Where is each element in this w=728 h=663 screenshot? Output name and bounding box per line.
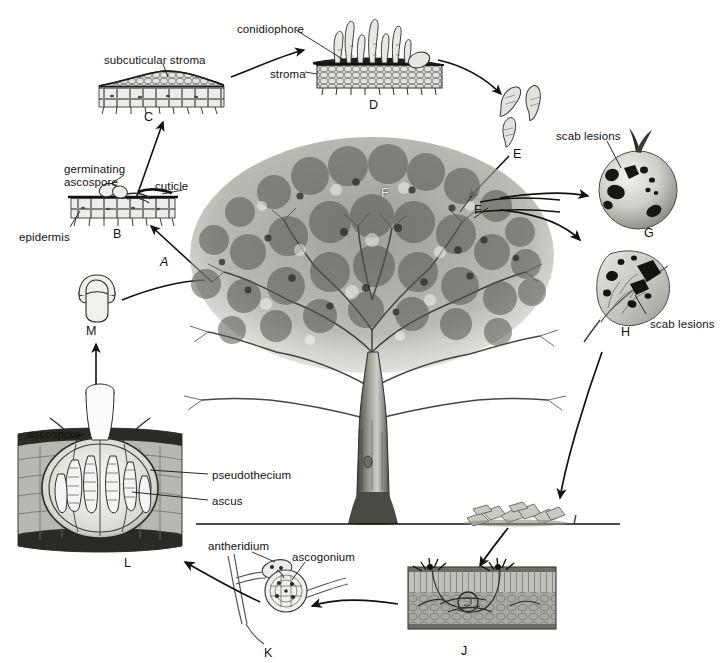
arrow-gametangia-to-pseudothecium (185, 562, 260, 602)
label-scab-lesions-fruit: scab lesions (556, 130, 620, 142)
label-epidermis: epidermis (19, 231, 70, 243)
label-ascospore-left: ascospore (27, 428, 81, 440)
arrow-tissue-to-gametangia (312, 600, 398, 606)
stage-letter-F-branch: F (474, 204, 482, 217)
label-germinating: germinating (64, 163, 125, 175)
label-ascospore-germ: ascospore (64, 176, 118, 188)
label-pseudothecium: pseudothecium (212, 469, 291, 481)
stage-letter-D: D (369, 99, 378, 112)
arrow-leaf-fall (560, 352, 602, 498)
label-conidiophore: conidiophore (237, 23, 304, 35)
label-cuticle: cuticle (155, 180, 188, 192)
stage-letter-C: C (144, 111, 153, 124)
stage-letter-L: L (124, 557, 131, 570)
panel-J-overwintering-tissue (408, 558, 556, 629)
stage-letter-I: I (573, 514, 577, 527)
stage-letter-J: J (461, 645, 467, 658)
panel-F-apple-tree (184, 137, 620, 524)
stage-letter-F-canopy: F (381, 187, 389, 200)
label-subcuticular-stroma: subcuticular stroma (104, 54, 206, 66)
stage-letter-B: B (113, 228, 121, 241)
label-stroma: stroma (270, 68, 306, 80)
panel-D-conidiophore (296, 19, 501, 95)
arrow-litter-to-overwinter (480, 528, 508, 566)
stage-letter-K: K (264, 647, 272, 660)
disease-cycle-figure: conidiophore subcuticular stroma stroma … (0, 0, 728, 663)
stage-letter-E: E (513, 148, 521, 161)
label-scab-lesions-leaf: scab lesions (650, 318, 714, 330)
figure-artwork (0, 0, 728, 663)
stage-letter-A: A (160, 256, 168, 269)
panel-M-ascospore (79, 275, 205, 400)
panel-G-apple-fruit (599, 128, 677, 229)
panel-K-gametangia (228, 552, 348, 644)
stage-letter-G: G (644, 227, 654, 240)
stage-letter-M: M (86, 325, 97, 338)
label-ascogonium: ascogonium (292, 551, 355, 563)
label-antheridium: antheridium (208, 540, 269, 552)
label-ascus: ascus (212, 495, 243, 507)
panel-I-leaf-litter (464, 502, 568, 526)
panel-L-pseudothecium (18, 384, 208, 552)
panel-B-germinating-ascospore (68, 175, 212, 282)
stage-letter-H: H (621, 326, 630, 339)
